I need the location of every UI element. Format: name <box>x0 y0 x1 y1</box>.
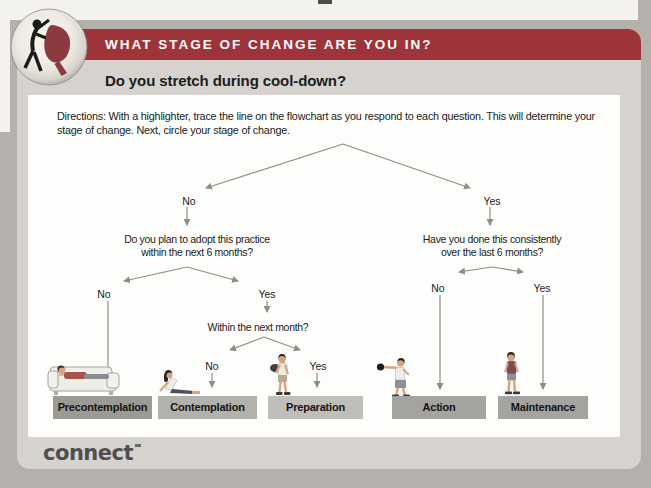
branch-label-consistent-yes: Yes <box>533 282 550 294</box>
person-boxing-icon <box>376 356 422 397</box>
question-adopt: Do you plan to adopt this practice withi… <box>124 233 270 258</box>
stage-box-maintenance: Maintenance <box>498 396 588 419</box>
trademark-mark <box>135 444 141 447</box>
person-sitting-icon <box>155 369 203 397</box>
branch-label-adopt-yes: Yes <box>258 288 275 300</box>
branch-label-month-yes: Yes <box>309 360 326 372</box>
person-on-couch-icon <box>46 361 130 397</box>
branch-label-consistent-no: No <box>431 282 444 294</box>
worksheet-question-title: Do you stretch during cool-down? <box>105 72 346 89</box>
stage-box-contemplation: Contemplation <box>158 396 257 419</box>
stage-box-action: Action <box>392 396 486 419</box>
question-adopt-line1: Do you plan to adopt this practice <box>124 233 270 246</box>
question-consistent-line2: over the last 6 months? <box>423 246 561 259</box>
banner-title: WHAT STAGE OF CHANGE ARE YOU IN? <box>105 37 433 52</box>
question-adopt-line2: within the next 6 months? <box>124 246 270 259</box>
scan-artifact-mark <box>318 0 332 4</box>
worksheet-card: WHAT STAGE OF CHANGE ARE YOU IN? Do you <box>17 29 641 469</box>
person-walking-with-bag-icon <box>268 354 296 397</box>
branch-label-root-no: No <box>182 195 195 207</box>
stage-box-preparation: Preparation <box>268 396 363 419</box>
connect-logo: connect <box>43 441 141 465</box>
header-banner: WHAT STAGE OF CHANGE ARE YOU IN? <box>17 29 641 60</box>
connect-logo-text: connect <box>43 441 133 465</box>
question-month: Within the next month? <box>208 321 309 334</box>
worksheet-page: WHAT STAGE OF CHANGE ARE YOU IN? Do you <box>0 0 651 488</box>
dancers-icon <box>9 7 89 87</box>
flowchart-sheet: Directions: With a highlighter, trace th… <box>28 95 620 437</box>
branch-label-adopt-no: No <box>97 288 110 300</box>
question-consistent-line1: Have you done this consistently <box>423 233 561 246</box>
stage-box-precontemplation: Precontemplation <box>53 396 152 419</box>
branch-label-root-yes: Yes <box>483 195 500 207</box>
branch-label-month-no: No <box>205 360 218 372</box>
question-consistent: Have you done this consistently over the… <box>423 233 561 258</box>
person-standing-icon <box>499 352 523 397</box>
